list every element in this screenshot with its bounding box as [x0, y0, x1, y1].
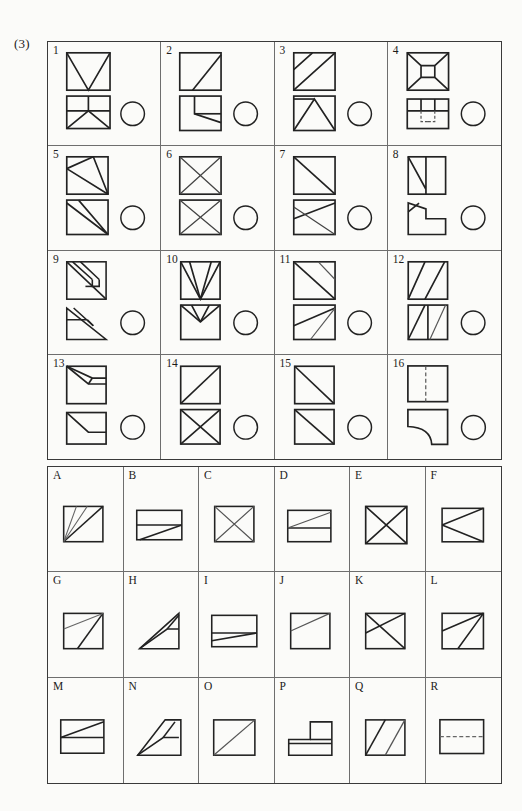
problem-cell-11[interactable]: 11: [275, 251, 388, 355]
problem-art-15: [275, 355, 387, 459]
problem-cell-14[interactable]: 14: [161, 355, 274, 459]
problem-grid: 1 2: [47, 41, 502, 460]
problem-cell-1[interactable]: 1: [48, 42, 161, 146]
problem-label-14: 14: [166, 357, 178, 370]
option-cell-J[interactable]: J: [275, 572, 351, 677]
answer-circle-7: [347, 206, 371, 230]
option-cell-O[interactable]: O: [199, 678, 275, 783]
problem-art-7: [275, 146, 387, 249]
problem-cell-7[interactable]: 7: [275, 146, 388, 250]
option-cell-H[interactable]: H: [124, 572, 200, 677]
problem-label-6: 6: [166, 148, 172, 161]
option-art-M: [48, 678, 123, 783]
option-art-J: [275, 572, 350, 676]
problem-art-16: [388, 355, 501, 459]
problem-cell-8[interactable]: 8: [388, 146, 501, 250]
problem-label-7: 7: [280, 148, 286, 161]
option-art-D: [275, 467, 350, 571]
option-label-Q: Q: [355, 680, 363, 693]
option-art-R: [426, 678, 502, 783]
answer-circle-4: [461, 102, 485, 126]
option-art-C: [199, 467, 274, 571]
option-cell-G[interactable]: G: [48, 572, 124, 677]
problem-art-5: [48, 146, 160, 249]
option-label-H: H: [129, 574, 137, 587]
option-label-F: F: [431, 469, 437, 482]
problem-art-1: [48, 42, 160, 145]
options-grid: A B: [47, 466, 502, 784]
problem-label-11: 11: [280, 253, 291, 266]
option-label-K: K: [355, 574, 363, 587]
option-cell-R[interactable]: R: [426, 678, 502, 783]
problem-art-4: [388, 42, 501, 145]
problem-art-12: [388, 251, 501, 354]
problem-label-12: 12: [393, 253, 405, 266]
answer-circle-2: [234, 102, 258, 126]
option-cell-F[interactable]: F: [426, 467, 502, 572]
option-label-O: O: [204, 680, 212, 693]
option-cell-A[interactable]: A: [48, 467, 124, 572]
problem-label-4: 4: [393, 44, 399, 57]
option-cell-D[interactable]: D: [275, 467, 351, 572]
problem-art-8: [388, 146, 501, 249]
option-cell-Q[interactable]: Q: [350, 678, 426, 783]
problem-cell-12[interactable]: 12: [388, 251, 501, 355]
option-cell-I[interactable]: I: [199, 572, 275, 677]
answer-circle-6: [234, 206, 258, 230]
option-art-P: [275, 678, 350, 783]
option-label-P: P: [280, 680, 286, 693]
problem-cell-2[interactable]: 2: [161, 42, 274, 146]
option-cell-P[interactable]: P: [275, 678, 351, 783]
option-label-M: M: [53, 680, 63, 693]
option-label-D: D: [280, 469, 288, 482]
option-label-N: N: [129, 680, 137, 693]
option-cell-B[interactable]: B: [124, 467, 200, 572]
answer-circle-14: [234, 415, 258, 439]
option-label-G: G: [53, 574, 61, 587]
option-art-I: [199, 572, 274, 676]
option-label-E: E: [355, 469, 362, 482]
option-art-K: [350, 572, 425, 676]
option-label-L: L: [431, 574, 438, 587]
option-cell-E[interactable]: E: [350, 467, 426, 572]
problem-label-15: 15: [280, 357, 292, 370]
problem-label-1: 1: [53, 44, 59, 57]
problem-art-10: [161, 251, 273, 354]
problem-cell-16[interactable]: 16: [388, 355, 501, 459]
problem-label-9: 9: [53, 253, 59, 266]
answer-circle-10: [234, 310, 258, 334]
problem-label-16: 16: [393, 357, 405, 370]
option-art-B: [124, 467, 199, 571]
option-art-L: [426, 572, 502, 676]
option-label-I: I: [204, 574, 208, 587]
option-label-C: C: [204, 469, 212, 482]
option-art-E: [350, 467, 425, 571]
problem-cell-4[interactable]: 4: [388, 42, 501, 146]
problem-cell-5[interactable]: 5: [48, 146, 161, 250]
problem-art-3: [275, 42, 387, 145]
option-cell-K[interactable]: K: [350, 572, 426, 677]
option-cell-N[interactable]: N: [124, 678, 200, 783]
problem-art-13: [48, 355, 160, 459]
problem-cell-9[interactable]: 9: [48, 251, 161, 355]
answer-circle-5: [121, 206, 145, 230]
problem-label-5: 5: [53, 148, 59, 161]
figure-number-label: (3): [14, 36, 30, 52]
option-label-A: A: [53, 469, 61, 482]
answer-circle-8: [461, 206, 485, 230]
problem-cell-10[interactable]: 10: [161, 251, 274, 355]
problem-cell-13[interactable]: 13: [48, 355, 161, 459]
option-art-G: [48, 572, 123, 676]
option-cell-M[interactable]: M: [48, 678, 124, 783]
option-label-B: B: [129, 469, 137, 482]
problem-cell-3[interactable]: 3: [275, 42, 388, 146]
option-cell-C[interactable]: C: [199, 467, 275, 572]
problem-cell-6[interactable]: 6: [161, 146, 274, 250]
problem-label-13: 13: [53, 357, 65, 370]
problem-label-8: 8: [393, 148, 399, 161]
answer-circle-13: [121, 415, 145, 439]
problem-cell-15[interactable]: 15: [275, 355, 388, 459]
option-cell-L[interactable]: L: [426, 572, 502, 677]
problem-art-11: [275, 251, 387, 354]
problem-art-9: [48, 251, 160, 354]
